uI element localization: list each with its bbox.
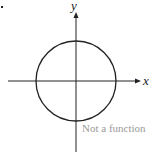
x-axis-arrow-icon: [135, 79, 141, 84]
bullet-dot: [1, 6, 3, 8]
caption-not-a-function: Not a function: [82, 122, 146, 134]
x-axis-label: x: [142, 73, 149, 88]
y-axis-label: y: [69, 0, 77, 13]
x-axis: x: [8, 73, 149, 88]
graph-diagram: x y Not a function: [0, 0, 160, 156]
y-axis: y: [69, 0, 79, 152]
